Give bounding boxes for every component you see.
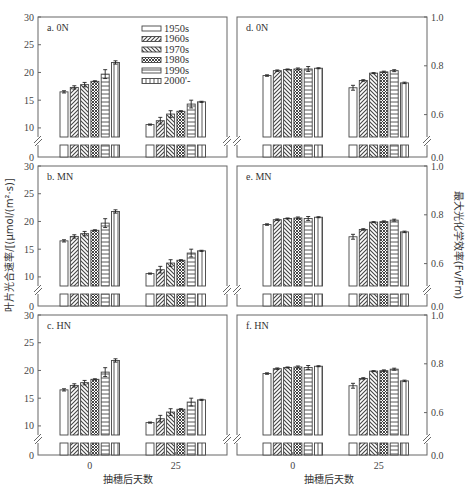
panel-title: c. HN xyxy=(47,320,71,331)
bar-stub xyxy=(401,443,409,455)
bar-stub xyxy=(304,145,312,157)
bar-stub xyxy=(198,294,206,306)
bar-stub xyxy=(101,443,109,455)
bar-stub xyxy=(112,145,120,157)
bar-stub xyxy=(390,294,398,306)
bar-1960s-0 xyxy=(70,236,78,286)
y-tick-label: 0 xyxy=(29,450,34,461)
bar-stub xyxy=(70,145,78,157)
bar-1970s-25 xyxy=(370,371,378,435)
figure: 10152025300a. 0N10152025300b. MN10152025… xyxy=(0,0,466,493)
bar-stub xyxy=(101,145,109,157)
bar-1980s-25 xyxy=(177,111,185,137)
panel-d: 0.60.81.00.0d. 0N xyxy=(233,12,444,163)
x-axis-title-left: 抽穗后天数 xyxy=(103,473,153,485)
bar-2000'--0 xyxy=(112,211,120,286)
bar-1960s-0 xyxy=(273,369,281,435)
y-tick-label: 0.6 xyxy=(431,407,444,418)
bar-stub xyxy=(81,443,89,455)
bar-stub xyxy=(156,145,164,157)
bar-1990s-25 xyxy=(390,71,398,137)
bar-1970s-0 xyxy=(81,383,89,435)
bar-stub xyxy=(294,443,302,455)
bar-1990s-0 xyxy=(101,372,109,435)
bar-1980s-25 xyxy=(177,409,185,435)
bar-stub xyxy=(167,145,175,157)
y-tick-label: 0.0 xyxy=(431,450,444,461)
x-tick-label: 25 xyxy=(171,460,181,471)
bar-1980s-25 xyxy=(380,72,388,137)
bar-stub xyxy=(156,294,164,306)
legend-swatch xyxy=(142,58,161,63)
bar-1990s-25 xyxy=(187,253,195,286)
bar-stub xyxy=(81,294,89,306)
bar-stub xyxy=(146,145,154,157)
panel-a: 10152025300a. 0N xyxy=(24,12,231,163)
bar-2000'--25 xyxy=(198,251,206,286)
panel-e: 0.60.81.00.0e. MN xyxy=(233,161,444,312)
legend-item-1950s: 1950s xyxy=(142,23,189,34)
bar-stub xyxy=(146,294,154,306)
bar-1980s-25 xyxy=(177,260,185,286)
bar-stub xyxy=(156,443,164,455)
y-tick-label: 30 xyxy=(24,161,34,172)
bar-1950s-0 xyxy=(263,225,271,286)
right-y-axis-title: 最大光化学效率(Fv/Fm) xyxy=(453,191,465,299)
legend-label: 1990s xyxy=(164,65,189,76)
bar-stub xyxy=(370,294,378,306)
bar-stub xyxy=(294,145,302,157)
bar-stub xyxy=(359,443,367,455)
legend-swatch xyxy=(142,79,161,84)
panel-title: d. 0N xyxy=(246,22,268,33)
y-tick-label: 30 xyxy=(24,310,34,321)
bar-1950s-0 xyxy=(60,92,68,137)
bar-stub xyxy=(315,294,323,306)
panel-title: f. HN xyxy=(246,320,269,331)
bar-stub xyxy=(304,294,312,306)
bar-stub xyxy=(187,145,195,157)
bar-1950s-25 xyxy=(349,386,357,435)
y-tick-label: 15 xyxy=(24,95,34,106)
bar-stub xyxy=(304,443,312,455)
bar-1990s-25 xyxy=(187,104,195,137)
bar-stub xyxy=(284,443,292,455)
bar-1950s-25 xyxy=(146,125,154,137)
y-tick-label: 0.6 xyxy=(431,258,444,269)
bar-stub xyxy=(370,145,378,157)
bar-2000'--25 xyxy=(401,83,409,137)
panel-f: 0.60.81.00.0f. HN025 xyxy=(233,310,444,472)
bar-1950s-25 xyxy=(146,274,154,286)
bar-stub xyxy=(359,145,367,157)
bar-stub xyxy=(70,294,78,306)
bar-stub xyxy=(349,145,357,157)
bar-stub xyxy=(60,145,68,157)
bar-2000'--0 xyxy=(112,62,120,137)
bar-1970s-0 xyxy=(284,218,292,286)
bar-stub xyxy=(284,294,292,306)
y-tick-label: 30 xyxy=(24,12,34,23)
bar-1990s-0 xyxy=(101,223,109,286)
y-tick-label: 20 xyxy=(24,67,34,78)
bar-stub xyxy=(177,145,185,157)
y-tick-label: 0.6 xyxy=(431,109,444,120)
bar-stub xyxy=(112,294,120,306)
legend-item-1960s: 1960s xyxy=(142,33,189,44)
bar-1990s-25 xyxy=(390,369,398,435)
bar-1990s-25 xyxy=(187,402,195,435)
bar-stub xyxy=(91,145,99,157)
bar-stub xyxy=(370,443,378,455)
bar-stub xyxy=(380,443,388,455)
legend-item-1970s: 1970s xyxy=(142,44,189,55)
legend-item-1990s: 1990s xyxy=(142,65,189,76)
legend-label: 2000'- xyxy=(164,75,191,86)
bar-1960s-0 xyxy=(273,220,281,286)
bar-stub xyxy=(380,294,388,306)
bar-stub xyxy=(401,145,409,157)
y-tick-label: 25 xyxy=(24,337,34,348)
y-tick-label: 1.0 xyxy=(431,161,444,172)
bar-stub xyxy=(70,443,78,455)
legend-swatch xyxy=(142,26,161,31)
bar-stub xyxy=(146,443,154,455)
x-tick-label: 0 xyxy=(87,460,92,471)
bar-1960s-0 xyxy=(273,71,281,137)
